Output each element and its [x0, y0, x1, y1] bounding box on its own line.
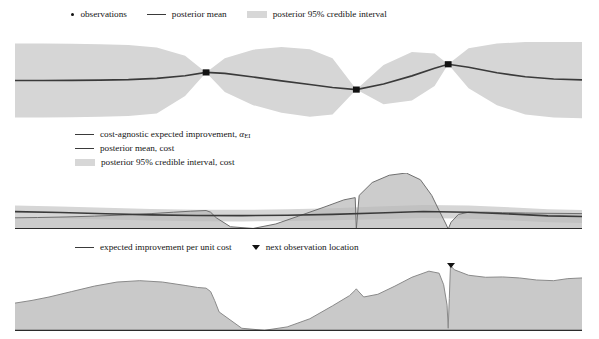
observation-marker — [445, 61, 452, 67]
alpha-subscript: EI — [244, 132, 251, 139]
down-triangle-icon — [252, 245, 260, 250]
legend-label-alpha-ei: cost-agnostic expected improvement, αEI — [100, 130, 251, 140]
ei-per-unit-cost-plot — [15, 263, 582, 331]
legend-label-cost-posterior-mean: posterior mean, cost — [100, 144, 174, 153]
legend-panel-2-row-3: posterior 95% credible interval, cost — [75, 158, 234, 167]
band-swatch-icon — [247, 11, 267, 19]
band-swatch-icon — [75, 159, 95, 167]
ei-per-unit-cost-panel — [15, 263, 582, 331]
alpha-ei-area — [15, 173, 582, 229]
legend-entry-alpha-ei: cost-agnostic expected improvement, αEI — [75, 130, 251, 140]
observation-dot-icon — [71, 13, 74, 16]
ei-per-unit-cost-area — [15, 266, 582, 331]
posterior-objective-panel — [15, 42, 582, 119]
legend-label-ei-per-unit-cost: expected improvement per unit cost — [100, 243, 232, 252]
legend-panel-1: observations posterior mean posterior 95… — [71, 10, 387, 19]
legend-entry-cost-credible-interval: posterior 95% credible interval, cost — [75, 158, 234, 167]
line-swatch-icon — [75, 148, 94, 149]
cost-and-ei-panel — [15, 173, 582, 229]
next-observation-marker-icon — [447, 263, 455, 268]
observation-marker — [203, 69, 210, 75]
legend-label-posterior-mean: posterior mean — [172, 10, 227, 19]
legend-entry-credible-interval: posterior 95% credible interval — [247, 10, 387, 19]
posterior-objective-plot — [15, 42, 582, 119]
line-swatch-icon — [75, 134, 94, 135]
legend-label-observations: observations — [80, 10, 126, 19]
cost-and-ei-plot — [15, 173, 582, 229]
observation-marker — [353, 87, 360, 93]
legend-entry-posterior-mean: posterior mean — [147, 10, 227, 19]
legend-entry-next-observation: next observation location — [252, 243, 359, 252]
legend-label-credible-interval: posterior 95% credible interval — [273, 10, 387, 19]
legend-label-alpha-ei-text: cost-agnostic expected improvement, — [100, 129, 239, 139]
legend-panel-3: expected improvement per unit cost next … — [75, 243, 359, 252]
legend-entry-cost-posterior-mean: posterior mean, cost — [75, 144, 174, 153]
legend-panel-2-row-2: posterior mean, cost — [75, 144, 174, 153]
legend-entry-ei-per-unit-cost: expected improvement per unit cost — [75, 243, 232, 252]
figure-root: observations posterior mean posterior 95… — [0, 0, 599, 339]
legend-panel-2-row-1: cost-agnostic expected improvement, αEI — [75, 130, 251, 140]
line-swatch-icon — [147, 14, 166, 15]
line-swatch-icon — [75, 247, 94, 248]
legend-label-cost-credible-interval: posterior 95% credible interval, cost — [101, 158, 234, 167]
legend-entry-observations: observations — [71, 10, 127, 19]
legend-label-next-observation: next observation location — [266, 243, 359, 252]
